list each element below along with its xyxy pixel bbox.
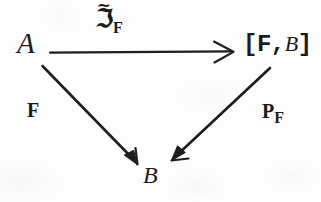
label-left-arrow: F <box>27 100 39 120</box>
node-a: A <box>17 29 35 58</box>
label-top-arrow: ℑ~F <box>96 6 123 36</box>
node-fb-open: [F, <box>243 31 285 58</box>
fraktur-j-symbol: ℑ~ <box>96 6 113 31</box>
label-right-arrow: PF <box>262 101 284 126</box>
node-fb: [F,B] <box>243 33 312 57</box>
label-right-symbol: P <box>262 100 274 122</box>
arrow-left-diagonal <box>43 66 138 165</box>
arrow-top <box>50 42 234 63</box>
arrow-right-diagonal <box>172 68 271 161</box>
label-right-subscript: F <box>274 109 284 126</box>
commutative-diagram: [F,B] ===== --> B ===== --> B ===== --> … <box>0 0 321 202</box>
node-b: B <box>143 163 158 187</box>
node-fb-italic-b: B <box>285 31 298 56</box>
tilde-accent-icon: ~ <box>97 0 111 14</box>
node-fb-close: ] <box>298 31 312 58</box>
label-top-subscript: F <box>113 19 123 36</box>
